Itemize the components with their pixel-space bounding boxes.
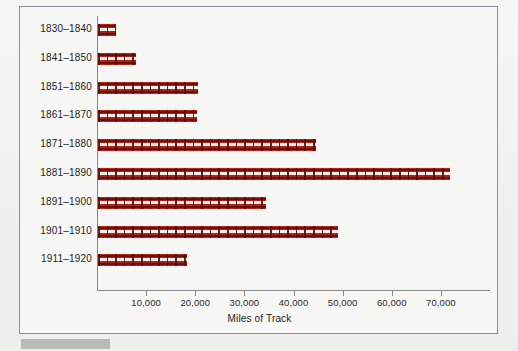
bar-row: 1911–1920 [20, 249, 499, 271]
x-axis-title: Miles of Track [20, 313, 499, 324]
category-label: 1901–1910 [40, 225, 92, 236]
bar-row: 1841–1850 [20, 48, 499, 70]
x-tick-mark [146, 291, 147, 296]
track-bar [98, 82, 198, 94]
track-bar [98, 168, 450, 180]
track-bar [98, 24, 116, 36]
bar-row: 1891–1900 [20, 192, 499, 214]
x-tick-label: 70,000 [426, 297, 456, 308]
category-label: 1871–1880 [40, 138, 92, 149]
x-tick-label: 30,000 [230, 297, 260, 308]
bar-row: 1871–1880 [20, 134, 499, 156]
category-label: 1881–1890 [40, 167, 92, 178]
plot-area: 1830–18401841–18501851–18601861–18701871… [20, 7, 499, 335]
x-tick-mark [195, 291, 196, 296]
figure-page: 1830–18401841–18501851–18601861–18701871… [0, 0, 518, 351]
x-tick-label: 60,000 [377, 297, 407, 308]
track-bar [98, 110, 197, 122]
x-tick-mark [392, 291, 393, 296]
category-label: 1841–1850 [40, 52, 92, 63]
track-bar [98, 226, 338, 238]
bar-row: 1901–1910 [20, 221, 499, 243]
x-tick-label: 10,000 [131, 297, 161, 308]
bar-row: 1881–1890 [20, 163, 499, 185]
x-tick-label: 40,000 [279, 297, 309, 308]
x-tick-label: 50,000 [328, 297, 358, 308]
category-label: 1891–1900 [40, 196, 92, 207]
category-label: 1830–1840 [40, 23, 92, 34]
x-tick-mark [244, 291, 245, 296]
bar-row: 1851–1860 [20, 77, 499, 99]
category-label: 1911–1920 [41, 253, 92, 264]
x-tick-label: 20,000 [180, 297, 210, 308]
bar-row: 1830–1840 [20, 19, 499, 41]
category-label: 1851–1860 [40, 81, 92, 92]
x-tick-mark [441, 291, 442, 296]
category-label: 1861–1870 [40, 109, 92, 120]
x-tick-mark [343, 291, 344, 296]
track-bar [98, 139, 316, 151]
track-bar [98, 197, 266, 209]
track-bar [98, 53, 136, 65]
caption-bar [21, 339, 110, 349]
chart-frame: 1830–18401841–18501851–18601861–18701871… [19, 6, 498, 334]
x-tick-mark [294, 291, 295, 296]
track-bar [98, 254, 187, 266]
bar-row: 1861–1870 [20, 105, 499, 127]
